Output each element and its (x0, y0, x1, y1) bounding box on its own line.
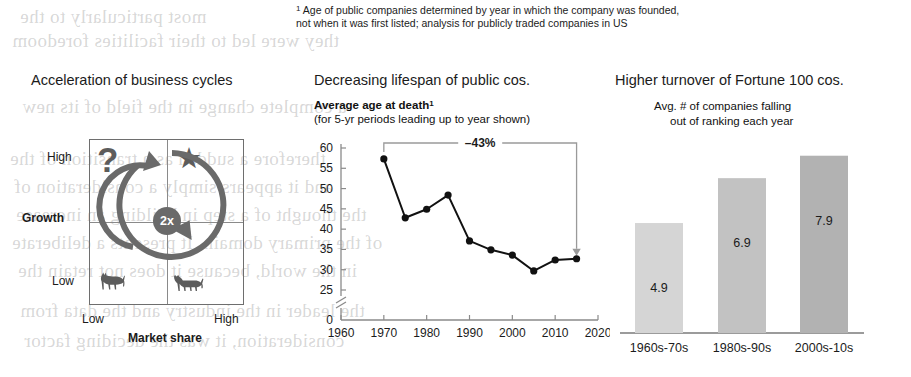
bar-value-label: 4.9 (650, 281, 667, 295)
bar-chart-panel: Higher turnover of Fortune 100 cos. Avg.… (0, 0, 911, 377)
bar-category-label: 1980s-90s (713, 341, 771, 355)
bar-panel-subtitle-line-1: Avg. # of companies falling (654, 100, 791, 112)
bar-panel-subtitle-line-2: out of ranking each year (670, 115, 793, 127)
bar-category-label: 1960s-70s (630, 341, 688, 355)
bar (800, 156, 848, 333)
bar-value-label: 6.9 (733, 236, 750, 250)
bar-category-label: 2000s-10s (795, 341, 853, 355)
bar-value-label: 7.9 (815, 214, 832, 228)
bar-panel-title: Higher turnover of Fortune 100 cos. (615, 72, 844, 88)
bar-chart-svg: 4.91960s-70s6.91980s-90s7.92000s-10s (612, 130, 872, 360)
bar (718, 178, 766, 333)
bar (635, 223, 683, 333)
